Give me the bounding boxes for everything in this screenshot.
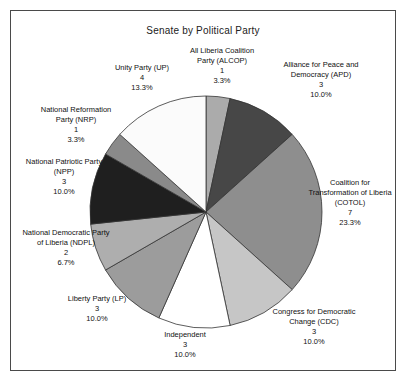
slice-label-nrp: National Reformation Party (NRP) 1 3.3% (21, 105, 131, 145)
slice-label-independent-seats: 3 (135, 340, 235, 350)
slice-label-npp-name: National Patriotic Party (NPP) (9, 157, 119, 177)
slice-label-npp-pct: 10.0% (9, 187, 119, 197)
slice-label-independent-pct: 10.0% (135, 350, 235, 360)
slice-label-cotol-seats: 7 (295, 208, 405, 218)
slice-label-cdc-seats: 3 (248, 327, 380, 337)
slice-label-apd-pct: 10.0% (260, 90, 382, 100)
slice-label-lp-pct: 10.0% (42, 314, 152, 324)
slice-label-npp: National Patriotic Party (NPP) 3 10.0% (9, 157, 119, 197)
slice-label-apd-seats: 3 (260, 80, 382, 90)
slice-label-independent: Independent 3 10.0% (135, 330, 235, 360)
slice-label-ndpl: National Democratic Party of Liberia (ND… (6, 228, 126, 268)
slice-label-independent-name: Independent (135, 330, 235, 340)
slice-label-ndpl-seats: 2 (6, 248, 126, 258)
slice-label-apd: Alliance for Peace and Democracy (APD) 3… (260, 60, 382, 100)
slice-label-cotol-pct: 23.3% (295, 218, 405, 228)
slice-label-up-pct: 13.3% (87, 83, 197, 93)
slice-label-nrp-seats: 1 (21, 125, 131, 135)
slice-label-apd-name: Alliance for Peace and Democracy (APD) (260, 60, 382, 80)
slice-label-up: Unity Party (UP) 4 13.3% (87, 63, 197, 93)
slice-label-nrp-pct: 3.3% (21, 135, 131, 145)
slice-label-lp-seats: 3 (42, 304, 152, 314)
slice-label-cotol-name: Coalition for Transformation of Liberia … (295, 178, 405, 208)
slice-label-up-name: Unity Party (UP) (87, 63, 197, 73)
slice-label-lp-name: Liberty Party (LP) (42, 294, 152, 304)
slice-label-cdc-name: Congress for Democratic Change (CDC) (248, 307, 380, 327)
slice-label-lp: Liberty Party (LP) 3 10.0% (42, 294, 152, 324)
slice-label-nrp-name: National Reformation Party (NRP) (21, 105, 131, 125)
slice-label-cotol: Coalition for Transformation of Liberia … (295, 178, 405, 228)
slice-label-npp-seats: 3 (9, 177, 119, 187)
slice-label-ndpl-pct: 6.7% (6, 258, 126, 268)
slice-label-cdc: Congress for Democratic Change (CDC) 3 1… (248, 307, 380, 347)
slice-label-ndpl-name: National Democratic Party of Liberia (ND… (6, 228, 126, 248)
slice-label-up-seats: 4 (87, 73, 197, 83)
screenshot-root: { "window": { "title": "Senate by Politi… (0, 0, 407, 381)
slice-label-cdc-pct: 10.0% (248, 337, 380, 347)
